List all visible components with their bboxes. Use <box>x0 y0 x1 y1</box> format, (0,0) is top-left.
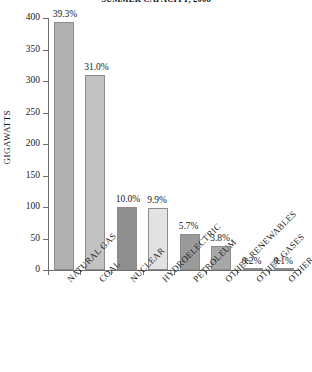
y-tick: 200 <box>0 144 48 145</box>
y-tick-label: 50 <box>31 232 41 245</box>
bar-value-label: 10.0% <box>116 194 141 204</box>
bar <box>117 207 137 270</box>
bar-value-label: 9.9% <box>147 195 167 205</box>
bar-value-label: 39.3% <box>53 9 78 19</box>
bar-value-label: 5.7% <box>179 221 199 231</box>
y-tick: 150 <box>0 176 48 177</box>
y-tick: 0 <box>0 270 48 271</box>
y-tick: 300 <box>0 81 48 82</box>
y-tick: 400 <box>0 18 48 19</box>
y-tick-label: 0 <box>35 263 40 276</box>
y-tick-label: 200 <box>26 137 40 150</box>
y-tick-label: 250 <box>26 106 40 119</box>
y-axis-label: GIGAWATTS <box>2 110 16 164</box>
y-tick-label: 400 <box>26 11 40 24</box>
y-tick: 250 <box>0 113 48 114</box>
y-tick-label: 350 <box>26 43 40 56</box>
y-tick: 100 <box>0 207 48 208</box>
bar <box>54 22 74 270</box>
y-tick: 350 <box>0 50 48 51</box>
x-tick-mark <box>48 271 49 275</box>
bar-value-label: 31.0% <box>84 62 109 72</box>
plot-area: 39.3%31.0%10.0%9.9%5.7%3.8%0.2%0.1% <box>48 18 300 270</box>
y-tick-label: 300 <box>26 74 40 87</box>
y-tick-label: 150 <box>26 169 40 182</box>
y-tick-label: 100 <box>26 200 40 213</box>
bar <box>274 268 294 270</box>
capacity-bar-chart: SUMMER CAPACITY, 2008 GIGAWATTS 05010015… <box>0 0 312 372</box>
chart-title: SUMMER CAPACITY, 2008 <box>0 0 312 4</box>
y-tick: 50 <box>0 239 48 240</box>
